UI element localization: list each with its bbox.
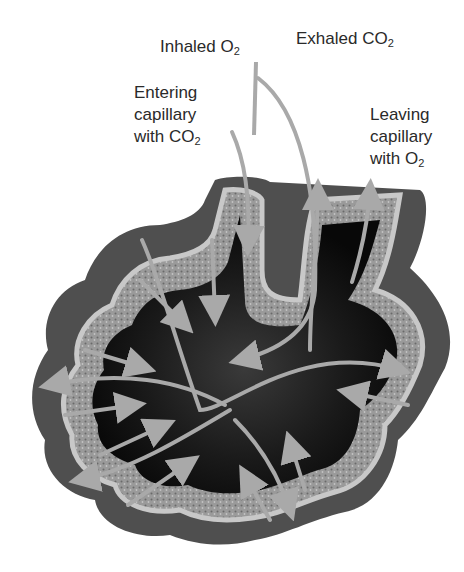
alveolus-diagram <box>0 0 464 572</box>
label-entering-capillary: Entering capillary with CO2 <box>134 82 201 152</box>
exhaled-arrow <box>254 62 256 135</box>
label-exhaled-co2: Exhaled CO2 <box>296 28 394 54</box>
label-leaving-capillary: Leaving capillary with O2 <box>370 104 432 174</box>
label-inhaled-o2: Inhaled O2 <box>160 36 240 62</box>
